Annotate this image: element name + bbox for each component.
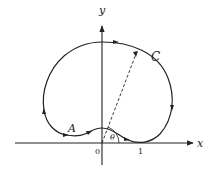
point-a-label: A [67, 122, 76, 135]
x-axis-label: x [197, 137, 204, 150]
direction-arrow-top-right [133, 51, 138, 57]
angle-label: θ [110, 133, 115, 142]
origin-label: 0 [95, 147, 100, 156]
direction-arrow-left [42, 108, 46, 114]
curve-label: C [151, 50, 160, 64]
direction-arrow-right [170, 105, 174, 111]
curve-diagram: y x C A θ 0 1 [0, 0, 212, 177]
tick-label-1: 1 [138, 147, 143, 156]
dashed-radius [102, 54, 136, 143]
y-axis-label: y [98, 4, 106, 17]
